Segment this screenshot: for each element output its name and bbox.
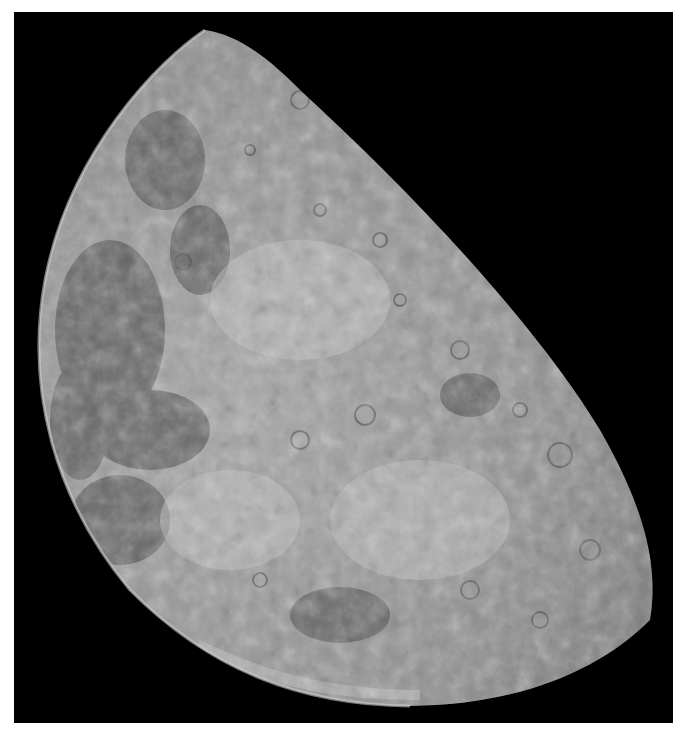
moon-image — [0, 0, 685, 734]
moon-disc — [0, 0, 685, 734]
